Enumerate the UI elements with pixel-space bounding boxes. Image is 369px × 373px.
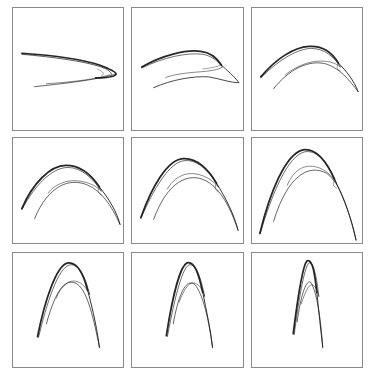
- attractor-plot: [13, 138, 123, 243]
- attractor-plot: [252, 253, 362, 367]
- attractor-branch-curve: [154, 65, 239, 88]
- attractor-branch-curve: [22, 53, 116, 78]
- attractor-branch-curve: [274, 170, 356, 240]
- attractor-panel-4: [12, 137, 124, 244]
- attractor-plot: [132, 138, 243, 243]
- attractor-panel-5: [131, 137, 244, 244]
- attractor-branch-curve: [165, 67, 222, 78]
- attractor-branch-curve: [56, 281, 89, 298]
- attractor-branch-curve: [166, 263, 202, 336]
- attractor-plot: [13, 8, 123, 130]
- attractor-branch-curve: [154, 178, 238, 231]
- attractor-plot: [132, 253, 243, 367]
- attractor-panel-9: [251, 252, 363, 368]
- attractor-branch-curve: [260, 150, 335, 234]
- attractor-plot: [252, 138, 362, 243]
- attractor-branch-curve: [35, 74, 117, 87]
- attractor-branch-curve: [301, 285, 319, 304]
- attractor-branch-curve: [216, 183, 238, 230]
- attractor-branch-curve: [141, 159, 217, 218]
- attractor-panel-2: [131, 7, 244, 131]
- attractor-branch-curve: [35, 182, 120, 224]
- attractor-branch-curve: [173, 283, 212, 347]
- attractor-branch-curve: [142, 51, 222, 67]
- attractor-branch-curve: [22, 165, 100, 208]
- attractor-branch-curve: [46, 75, 109, 84]
- attractor-branch-curve: [203, 65, 221, 69]
- attractor-panel-7: [12, 252, 124, 368]
- attractor-panel-6: [251, 137, 363, 244]
- attractor-branch-curve: [97, 69, 103, 76]
- attractor-branch-curve: [46, 282, 99, 347]
- attractor-branch-curve: [274, 63, 358, 92]
- attractor-branch-curve: [38, 263, 88, 337]
- attractor-plot: [13, 253, 123, 367]
- attractor-panel-1: [12, 7, 124, 131]
- attractor-plot: [132, 8, 243, 130]
- attractor-panel-3: [251, 7, 363, 131]
- attractor-panel-8: [131, 252, 244, 368]
- attractor-branch-curve: [334, 179, 356, 240]
- attractor-plot: [252, 8, 362, 130]
